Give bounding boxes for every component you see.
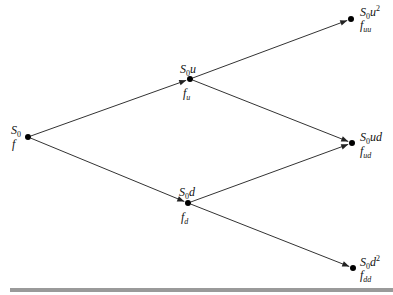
- bottom-rule-divider: [10, 288, 393, 292]
- root-price-label: S0: [11, 124, 21, 136]
- tree-edges: [31, 20, 350, 266]
- edge-root-to-u: [31, 80, 186, 136]
- ud-price-label: S0ud: [360, 131, 382, 143]
- ud-value-label: fud: [360, 145, 371, 157]
- uu-value-label: fuu: [360, 19, 371, 31]
- edge-u-to-uu: [193, 20, 347, 78]
- uu-price-label: S0u2: [360, 6, 380, 18]
- u-value-label: fu: [183, 87, 190, 99]
- edge-d-to-ud: [191, 144, 348, 202]
- edge-u-to-ud: [193, 80, 348, 141]
- node-ud: [349, 140, 355, 146]
- edge-root-to-d: [31, 138, 185, 201]
- u-price-label: S0u: [180, 63, 196, 75]
- tree-nodes: [25, 16, 356, 271]
- d-price-label: S0d: [179, 186, 195, 198]
- node-uu: [348, 16, 354, 22]
- root-value-label: f: [12, 138, 15, 150]
- d-value-label: fd: [181, 211, 188, 223]
- dd-price-label: S0d2: [360, 256, 380, 268]
- node-dd: [350, 265, 356, 271]
- dd-value-label: fdd: [360, 269, 371, 281]
- edge-d-to-dd: [191, 204, 349, 266]
- binomial-tree-diagram: [0, 0, 393, 295]
- node-root: [25, 134, 31, 140]
